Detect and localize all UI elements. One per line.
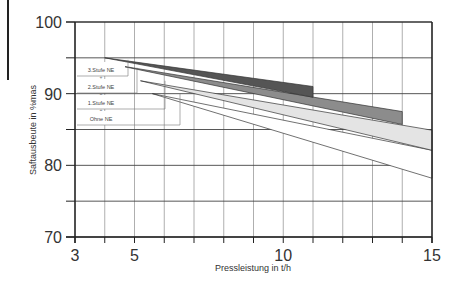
axes: 351015708090100: [35, 14, 441, 264]
y-tick-label: 90: [44, 86, 62, 103]
legend-label: Ohne NE: [90, 116, 113, 122]
y-axis-label: Saftausbeute in %mas: [28, 84, 38, 175]
legend-label: 1.Stufe NE: [88, 100, 115, 106]
data-bands: [105, 58, 432, 178]
x-axis-label: Pressleistung in t/h: [215, 263, 291, 273]
band-3-stufe-ne: [105, 58, 313, 97]
x-tick-label: 10: [274, 247, 292, 264]
y-tick-label: 80: [44, 157, 62, 174]
x-tick-label: 3: [71, 247, 80, 264]
y-tick-label: 70: [44, 229, 62, 246]
x-tick-label: 15: [423, 247, 441, 264]
y-tick-label: 100: [35, 14, 62, 31]
x-tick-label: 5: [130, 247, 139, 264]
legend-label: 2.Stufe NE: [88, 84, 115, 90]
yield-chart: 3.Stufe NE+2.Stufe NE+1.Stufe NE+Ohne NE…: [0, 0, 461, 286]
legend-label: 3.Stufe NE: [88, 67, 115, 73]
